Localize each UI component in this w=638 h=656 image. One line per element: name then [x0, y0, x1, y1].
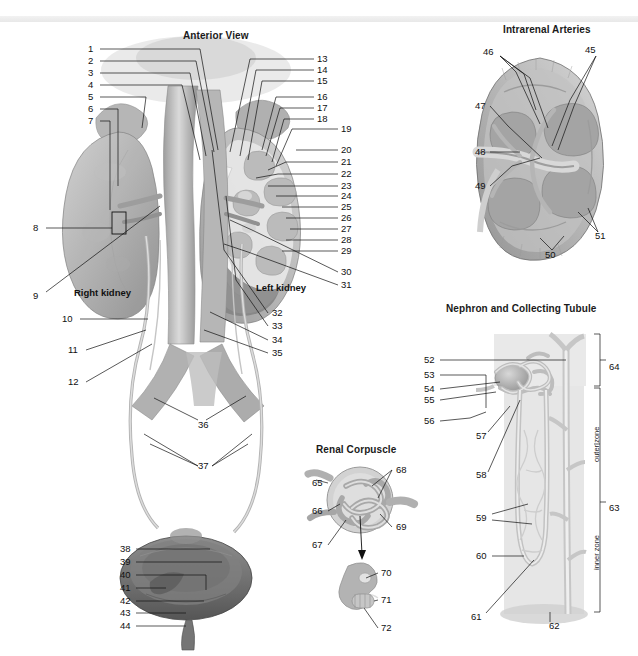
callout-number-52: 52	[424, 355, 435, 365]
callout-number-51: 51	[595, 231, 606, 241]
callout-number-36: 36	[198, 420, 209, 430]
callout-number-37: 37	[198, 461, 209, 471]
callout-number-2: 2	[88, 56, 93, 66]
callout-number-50: 50	[545, 250, 556, 260]
callout-number-21: 21	[341, 157, 352, 167]
callout-number-14: 14	[317, 65, 328, 75]
callout-number-67: 67	[312, 540, 323, 550]
callout-number-11: 11	[68, 345, 78, 355]
callout-number-7: 7	[88, 116, 93, 126]
callout-number-5: 5	[88, 92, 93, 102]
callout-number-12: 12	[68, 377, 79, 387]
callout-number-44: 44	[120, 621, 131, 631]
renal-corpuscle-title: Renal Corpuscle	[316, 444, 396, 455]
callout-number-32: 32	[272, 308, 283, 318]
callout-number-45: 45	[585, 45, 596, 55]
callout-number-41: 41	[120, 583, 131, 593]
callout-number-8: 8	[33, 223, 38, 233]
callout-number-16: 16	[317, 92, 328, 102]
callout-number-31: 31	[341, 280, 352, 290]
organ-label: Left kidney	[256, 282, 306, 293]
callout-number-18: 18	[317, 114, 328, 124]
callout-number-33: 33	[272, 321, 283, 331]
callout-number-4: 4	[88, 80, 93, 90]
callout-number-46: 46	[483, 47, 494, 57]
callout-number-27: 27	[341, 224, 352, 234]
callout-number-3: 3	[88, 68, 93, 78]
callout-number-60: 60	[476, 551, 487, 561]
organ-label: Right kidney	[74, 287, 131, 298]
nephron-collecting-tubule-title: Nephron and Collecting Tubule	[446, 303, 597, 314]
callout-number-55: 55	[424, 395, 435, 405]
anterior-view-title: Anterior View	[183, 30, 249, 41]
callout-number-13: 13	[317, 54, 328, 64]
callout-number-63: 63	[609, 503, 620, 513]
callout-number-1: 1	[88, 44, 93, 54]
callout-number-22: 22	[341, 169, 352, 179]
callout-number-17: 17	[317, 103, 328, 113]
callout-number-40: 40	[120, 570, 131, 580]
callout-number-68: 68	[396, 465, 407, 475]
callout-number-47: 47	[475, 101, 486, 111]
callout-number-53: 53	[424, 370, 435, 380]
callout-number-19: 19	[341, 124, 352, 134]
zone-label: outer zone	[592, 427, 601, 462]
callout-number-48: 48	[475, 147, 486, 157]
callout-number-6: 6	[88, 104, 93, 114]
intrarenal-arteries-title: Intrarenal Arteries	[503, 24, 591, 35]
callout-number-42: 42	[120, 596, 131, 606]
callout-number-43: 43	[120, 608, 131, 618]
callout-number-35: 35	[272, 348, 283, 358]
callout-number-24: 24	[341, 191, 352, 201]
callout-number-58: 58	[476, 470, 487, 480]
callout-number-38: 38	[120, 544, 131, 554]
callout-number-20: 20	[341, 145, 352, 155]
callout-number-30: 30	[341, 267, 352, 277]
callout-number-9: 9	[33, 291, 38, 301]
callout-number-25: 25	[341, 202, 352, 212]
callout-number-49: 49	[475, 181, 486, 191]
callout-number-72: 72	[381, 623, 392, 633]
callout-number-69: 69	[396, 522, 407, 532]
callout-number-28: 28	[341, 235, 352, 245]
callout-number-71: 71	[381, 595, 392, 605]
callout-number-70: 70	[381, 568, 392, 578]
callout-number-34: 34	[272, 335, 283, 345]
zone-label: inner zone	[592, 535, 601, 570]
callout-number-54: 54	[424, 384, 435, 394]
callout-number-64: 64	[609, 362, 620, 372]
callout-number-56: 56	[424, 416, 435, 426]
callout-number-59: 59	[476, 513, 487, 523]
callout-number-61: 61	[471, 612, 482, 622]
callout-number-57: 57	[476, 431, 487, 441]
callout-number-26: 26	[341, 213, 352, 223]
callout-number-29: 29	[341, 246, 352, 256]
callout-number-39: 39	[120, 557, 131, 567]
callout-number-10: 10	[62, 314, 73, 324]
callout-number-62: 62	[549, 621, 560, 631]
callout-number-15: 15	[317, 76, 328, 86]
callout-number-66: 66	[312, 506, 323, 516]
anatomy-plate: Anterior View Intrarenal Arteries Nephro…	[0, 0, 638, 656]
callout-number-65: 65	[312, 478, 323, 488]
